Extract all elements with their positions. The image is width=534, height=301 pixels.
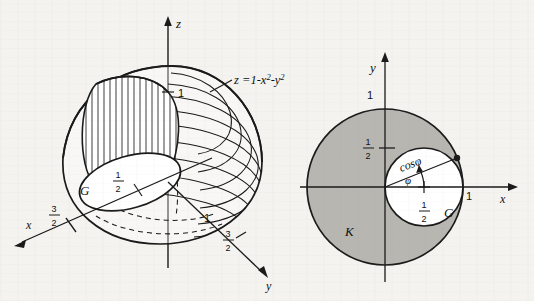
inner-center-denominator: 2: [421, 214, 426, 224]
x-tick-denominator: 2: [51, 218, 56, 228]
radius-numerator: 1: [115, 170, 120, 180]
figure-svg: z: [0, 0, 534, 301]
inner-disk-G-label: G: [444, 205, 454, 220]
boundary-point: [454, 155, 460, 161]
angle-label: φ: [405, 174, 411, 186]
y-half-numerator: 1: [365, 137, 370, 147]
right-x-axis-label: x: [499, 192, 506, 206]
inner-center-numerator: 1: [421, 200, 426, 210]
right-x-tick-one-label: 1: [466, 190, 472, 202]
outer-disk-K-label: K: [344, 224, 355, 239]
right-y-axis-label: y: [368, 60, 376, 75]
y-half-denominator: 2: [365, 151, 370, 161]
radius-denominator: 2: [115, 184, 120, 194]
z-value-one-label: 1: [178, 87, 184, 99]
region-G-label: G: [80, 183, 90, 198]
x-tick-numerator: 3: [51, 204, 56, 214]
right-y-tick-one-label: 1: [367, 89, 373, 101]
y-tick-denominator: 2: [225, 243, 230, 253]
z-axis-label: z: [175, 16, 181, 31]
y-axis-label: y: [265, 279, 272, 293]
surface-equation-text: z =1-x2-y2: [233, 72, 285, 87]
y-tick-numerator: 3: [225, 229, 230, 239]
figure-root: z: [0, 0, 534, 301]
y-value-one-label: 1: [204, 212, 210, 224]
x-axis-label: x: [25, 218, 32, 232]
